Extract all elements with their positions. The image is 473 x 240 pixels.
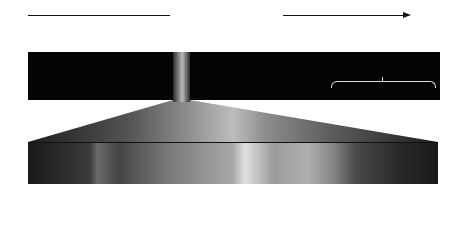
visible-spectrum-band [28,142,438,184]
visible-strip [173,52,190,102]
